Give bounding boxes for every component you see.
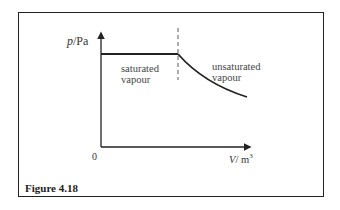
x-axis-unit-exponent: 3 bbox=[249, 152, 253, 160]
saturated-label-line1: saturated bbox=[121, 63, 159, 74]
y-axis-unit: /Pa bbox=[73, 34, 88, 48]
pv-diagram bbox=[0, 0, 340, 210]
unsaturated-label-line2: vapour bbox=[212, 72, 260, 83]
figure-caption: Figure 4.18 bbox=[25, 182, 78, 194]
origin-label: 0 bbox=[92, 152, 97, 162]
x-axis-label: V/ m3 bbox=[229, 155, 253, 166]
unsaturated-label-line1: unsaturated bbox=[212, 61, 260, 72]
y-axis-label: p/Pa bbox=[67, 35, 88, 47]
saturated-vapour-label: saturated vapour bbox=[121, 63, 159, 85]
x-axis-unit: / m bbox=[235, 154, 249, 165]
unsaturated-vapour-label: unsaturated vapour bbox=[212, 61, 260, 83]
saturated-label-line2: vapour bbox=[121, 74, 159, 85]
